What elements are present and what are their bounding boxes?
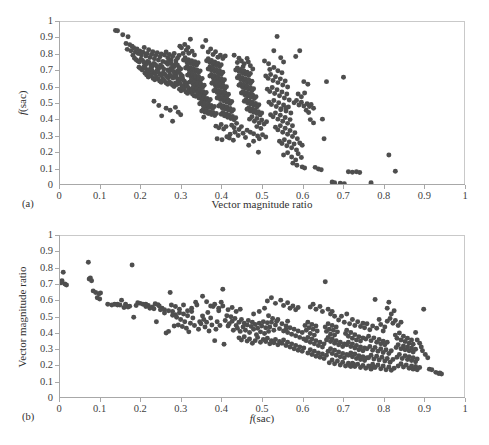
y-tick-label-a-9: 0.9 — [25, 32, 53, 43]
scatter-points-b — [60, 235, 465, 397]
y-tick-b-6 — [55, 300, 59, 301]
y-tick-a-3 — [55, 136, 59, 137]
x-tick-b-10 — [465, 398, 466, 402]
x-tick-label-b-3: 0.3 — [174, 404, 187, 415]
x-axis-title-b: f(sac) — [250, 412, 274, 424]
y-tick-label-a-1: 0.1 — [25, 163, 53, 174]
y-tick-label-b-5: 0.5 — [25, 311, 53, 322]
y-tick-label-a-8: 0.8 — [25, 49, 53, 60]
x-tick-label-a-2: 0.2 — [134, 191, 147, 202]
y-tick-label-b-1: 0.1 — [25, 376, 53, 387]
y-tick-b-10 — [55, 235, 59, 236]
y-axis-title-a-sac: (sac) — [16, 91, 28, 112]
panel-b: 00.10.20.30.40.50.60.70.80.9100.10.20.30… — [0, 214, 489, 445]
y-tick-label-a-6: 0.6 — [25, 81, 53, 92]
plot-area-b — [59, 235, 465, 398]
y-tick-a-10 — [55, 21, 59, 22]
y-tick-b-7 — [55, 284, 59, 285]
x-tick-a-4 — [221, 185, 222, 189]
y-tick-b-4 — [55, 333, 59, 334]
x-axis-title-b-sac: (sac) — [253, 412, 274, 424]
y-tick-a-8 — [55, 54, 59, 55]
x-tick-a-0 — [59, 185, 60, 189]
panel-label-b: (b) — [22, 411, 34, 422]
y-tick-a-2 — [55, 152, 59, 153]
y-tick-b-9 — [55, 251, 59, 252]
y-axis-title-a: f(sac) — [16, 91, 28, 115]
x-tick-a-9 — [424, 185, 425, 189]
x-tick-label-b-1: 0.1 — [93, 404, 106, 415]
y-tick-label-b-4: 0.4 — [25, 328, 53, 339]
x-tick-label-b-4: 0.4 — [215, 404, 228, 415]
y-tick-label-b-2: 0.2 — [25, 360, 53, 371]
y-tick-a-6 — [55, 87, 59, 88]
x-tick-a-5 — [262, 185, 263, 189]
x-tick-b-0 — [59, 398, 60, 402]
y-tick-label-a-4: 0.4 — [25, 114, 53, 125]
y-tick-b-5 — [55, 317, 59, 318]
x-tick-label-a-7: 0.7 — [337, 191, 350, 202]
y-tick-label-b-8: 0.8 — [25, 262, 53, 273]
y-tick-a-1 — [55, 169, 59, 170]
x-tick-label-b-6: 0.6 — [296, 404, 309, 415]
scatter-points-a — [60, 21, 465, 184]
x-axis-title-a: Vector magnitude ratio — [212, 198, 313, 210]
panel-a: 00.10.20.30.40.50.60.70.80.9100.10.20.30… — [0, 0, 489, 222]
x-tick-a-2 — [140, 185, 141, 189]
x-tick-label-b-0: 0 — [56, 404, 61, 415]
y-tick-label-b-3: 0.3 — [25, 344, 53, 355]
x-tick-a-7 — [343, 185, 344, 189]
figure-caption — [0, 437, 489, 445]
x-tick-label-b-7: 0.7 — [337, 404, 350, 415]
x-tick-b-5 — [262, 398, 263, 402]
x-tick-b-1 — [100, 398, 101, 402]
x-tick-label-a-3: 0.3 — [174, 191, 187, 202]
y-tick-b-1 — [55, 382, 59, 383]
y-tick-b-8 — [55, 268, 59, 269]
x-tick-a-8 — [384, 185, 385, 189]
x-tick-a-10 — [465, 185, 466, 189]
x-tick-a-6 — [303, 185, 304, 189]
x-tick-a-3 — [181, 185, 182, 189]
x-tick-label-a-9: 0.9 — [418, 191, 431, 202]
y-tick-label-b-6: 0.6 — [25, 295, 53, 306]
plot-area-a — [59, 21, 465, 185]
y-tick-label-a-0: 0 — [25, 180, 53, 191]
y-tick-a-7 — [55, 70, 59, 71]
y-tick-label-a-7: 0.7 — [25, 65, 53, 76]
x-tick-label-a-10: 1 — [462, 191, 467, 202]
x-tick-b-9 — [424, 398, 425, 402]
x-tick-label-a-0: 0 — [56, 191, 61, 202]
y-axis-title-a-f: f — [16, 112, 28, 115]
x-tick-label-b-9: 0.9 — [418, 404, 431, 415]
y-tick-label-a-3: 0.3 — [25, 131, 53, 142]
x-tick-a-1 — [100, 185, 101, 189]
y-tick-label-b-7: 0.7 — [25, 279, 53, 290]
figure-container: 00.10.20.30.40.50.60.70.80.9100.10.20.30… — [0, 0, 489, 445]
y-tick-label-a-5: 0.5 — [25, 98, 53, 109]
y-tick-b-3 — [55, 349, 59, 350]
panel-label-a: (a) — [22, 198, 34, 209]
y-tick-a-5 — [55, 103, 59, 104]
y-tick-label-b-9: 0.9 — [25, 246, 53, 257]
x-tick-b-8 — [384, 398, 385, 402]
x-tick-b-3 — [181, 398, 182, 402]
x-tick-label-b-8: 0.8 — [377, 404, 390, 415]
x-tick-b-4 — [221, 398, 222, 402]
y-tick-a-9 — [55, 37, 59, 38]
x-tick-label-b-10: 1 — [462, 404, 467, 415]
y-axis-title-b: Vector magnitude ratio — [16, 267, 28, 368]
x-tick-label-a-8: 0.8 — [377, 191, 390, 202]
y-tick-label-a-10: 1 — [25, 16, 53, 27]
x-tick-label-a-1: 0.1 — [93, 191, 106, 202]
y-tick-label-b-0: 0 — [25, 393, 53, 404]
y-tick-label-b-10: 1 — [25, 230, 53, 241]
x-tick-b-2 — [140, 398, 141, 402]
x-tick-label-b-2: 0.2 — [134, 404, 147, 415]
x-tick-b-7 — [343, 398, 344, 402]
y-tick-a-4 — [55, 119, 59, 120]
y-tick-b-2 — [55, 365, 59, 366]
y-tick-label-a-2: 0.2 — [25, 147, 53, 158]
x-tick-b-6 — [303, 398, 304, 402]
